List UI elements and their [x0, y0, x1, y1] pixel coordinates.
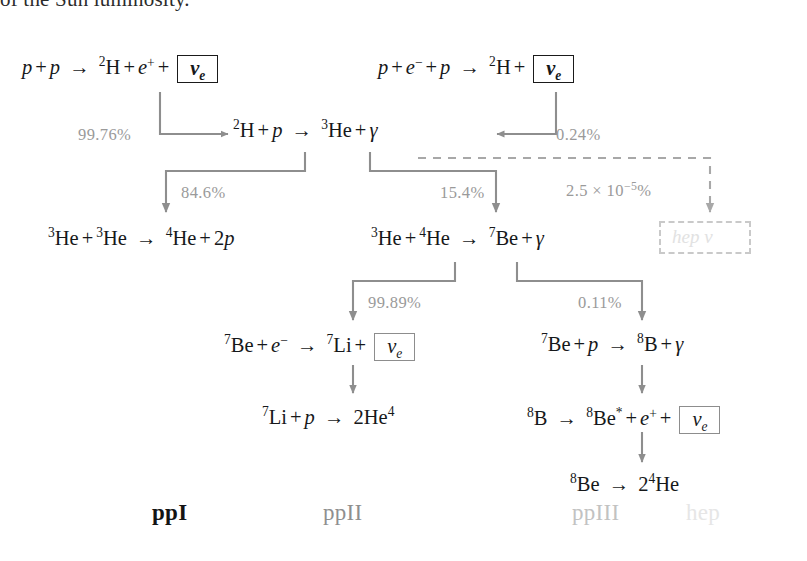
be7-proton-capture: 7Be+p → 8B+γ — [541, 334, 683, 355]
pep-reaction: p+e−+p → 2H+νe — [378, 56, 574, 84]
deuterium-burning: 2H+p → 3He+γ — [233, 120, 377, 141]
li7-proton-capture: 7Li+p → 2He4 — [262, 407, 394, 428]
wire-pep-to-deuterium — [497, 92, 556, 134]
branch-label-pep: 0.24% — [556, 125, 601, 145]
chain-label-ppI: ppI — [152, 500, 187, 526]
be8-breakup: 8Be → 24He — [570, 474, 679, 495]
hep-branch-coefficient: 2.5 × 10 — [566, 181, 624, 200]
branch-label-ppI: 84.6% — [181, 183, 226, 203]
hep-branch-suffix: % — [637, 181, 651, 200]
wire-deuterium-to-he3he4 — [370, 152, 496, 212]
chain-label-hep: hep — [686, 500, 720, 526]
pp-chain-diagram: of the Sun luminosity. — [0, 0, 807, 561]
branch-label-hep: 2.5 × 10−5% — [566, 181, 651, 201]
hep-branch-exponent: −5 — [624, 179, 637, 193]
wire-pp-to-deuterium — [160, 92, 228, 134]
he3-he4-fusion: 3He+4He → 7Be+γ — [371, 228, 544, 249]
chain-label-ppII: ppII — [323, 500, 363, 526]
branch-label-ppII-ppIII: 15.4% — [440, 183, 485, 203]
ppI-termination: 3He+3He → 4He+2p — [48, 228, 234, 249]
b8-beta-decay: 8B → 8Be*+e++νe — [527, 407, 720, 435]
chain-label-ppIII: ppIII — [572, 500, 619, 526]
neutrino-box-be7: νe — [374, 333, 415, 361]
neutrino-box-b8: νe — [679, 406, 720, 434]
wire-deuterium-to-ppI — [166, 152, 305, 212]
be7-electron-capture: 7Be+e− → 7Li+νe — [224, 334, 415, 362]
hep-neutrino-label: hep ν — [672, 226, 713, 248]
branch-label-pp: 99.76% — [78, 125, 131, 145]
connector-lines — [0, 0, 807, 561]
branch-label-be7-electron: 99.89% — [368, 293, 421, 313]
branch-label-be7-proton: 0.11% — [578, 293, 622, 313]
neutrino-box-pp: νe — [177, 55, 218, 83]
pp-reaction: p+p → 2H+e++νe — [22, 56, 218, 84]
neutrino-box-pep: νe — [533, 55, 574, 83]
